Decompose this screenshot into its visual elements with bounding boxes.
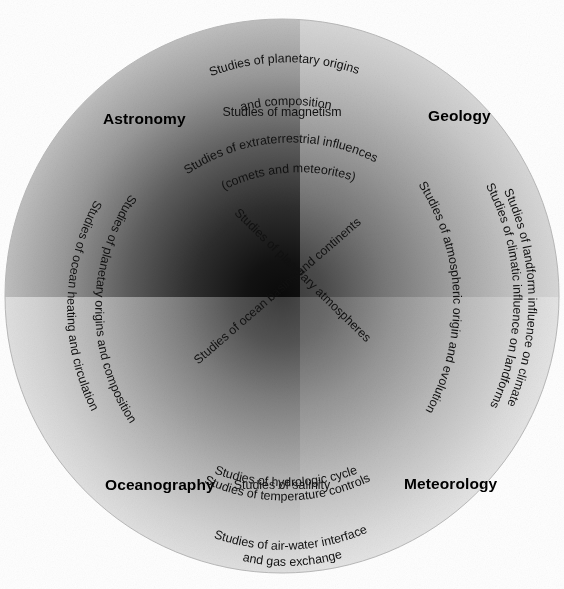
quadrant-label-geology: Geology [428, 107, 491, 124]
quadrant-label-meteorology: Meteorology [404, 475, 498, 492]
study-magnetism: Studies of magnetism [222, 105, 341, 119]
earth-sciences-quadrant-diagram: Astronomy Geology Oceanography Meteorolo… [0, 0, 564, 589]
diagram-canvas: Astronomy Geology Oceanography Meteorolo… [0, 0, 564, 589]
quadrant-label-oceanography: Oceanography [105, 476, 215, 493]
quadrant-label-astronomy: Astronomy [103, 110, 186, 127]
study-salinity: Studies of salinity [234, 478, 331, 492]
